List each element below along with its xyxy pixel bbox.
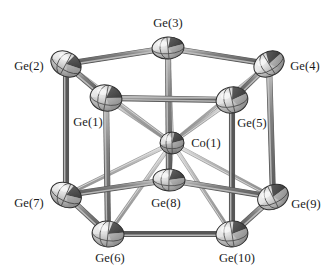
atom-label-ge5: Ge(5) xyxy=(237,117,267,130)
atom-label-ge10: Ge(10) xyxy=(219,252,255,265)
atom-label-ge2: Ge(2) xyxy=(14,60,44,73)
atom-label-ge4: Ge(4) xyxy=(290,60,320,73)
atom-label-ge6: Ge(6) xyxy=(95,252,125,265)
atom-label-ge3: Ge(3) xyxy=(153,17,183,30)
atom-ge8 xyxy=(151,168,187,192)
atom-label-ge8: Ge(8) xyxy=(151,197,181,210)
atom-ge3 xyxy=(150,35,186,60)
structure-canvas xyxy=(0,0,334,276)
atom-label-ge1: Ge(1) xyxy=(73,116,103,129)
atom-label-co1: Co(1) xyxy=(191,137,221,150)
atom-label-ge7: Ge(7) xyxy=(14,197,44,210)
crystal-structure-figure: Ge(3)Ge(2)Ge(4)Ge(1)Ge(5)Co(1)Ge(8)Ge(7)… xyxy=(0,0,334,276)
atom-label-ge9: Ge(9) xyxy=(291,198,321,211)
